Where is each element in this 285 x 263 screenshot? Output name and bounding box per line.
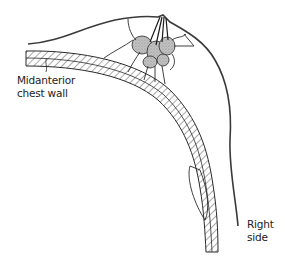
label-right-side-line1: Right bbox=[247, 218, 274, 231]
label-midanterior-chest-wall: Midanterior chest wall bbox=[17, 74, 75, 100]
label-right-side-line2: side bbox=[247, 231, 274, 244]
breast-cross-section-diagram: Midanterior chest wall Right side bbox=[0, 0, 285, 263]
glandular-tissue bbox=[132, 36, 175, 68]
diagram-svg bbox=[0, 0, 285, 263]
label-right-side: Right side bbox=[247, 218, 274, 244]
label-midanterior-line1: Midanterior bbox=[17, 74, 75, 87]
label-midanterior-line2: chest wall bbox=[17, 87, 75, 100]
